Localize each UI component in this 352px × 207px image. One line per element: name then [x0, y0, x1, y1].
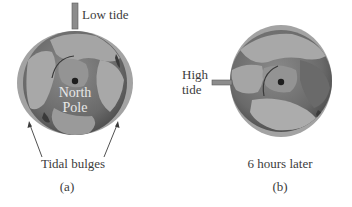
panel-a: North Pole Low tide Tidal bulges (a)	[17, 3, 133, 194]
tidal-bulge-arrow-left	[28, 121, 43, 157]
high-tide-marker	[212, 80, 232, 85]
six-hours-later-caption: 6 hours later	[248, 156, 314, 171]
panel-b-label: (b)	[272, 179, 287, 194]
tidal-diagram: North Pole Low tide Tidal bulges (a)	[0, 0, 352, 207]
panel-a-label: (a)	[60, 179, 74, 194]
high-tide-label-line2: tide	[182, 82, 202, 97]
panel-b: High tide 6 hours later (b)	[182, 25, 332, 194]
low-tide-label: Low tide	[82, 7, 129, 22]
north-pole-label-line1: North	[59, 85, 92, 100]
low-tide-marker	[72, 3, 78, 29]
high-tide-label-line1: High	[182, 67, 209, 82]
tidal-bulges-label: Tidal bulges	[41, 156, 105, 171]
north-pole-label-line2: Pole	[63, 100, 88, 115]
north-pole-dot	[72, 78, 78, 84]
north-pole-dot	[278, 79, 284, 85]
